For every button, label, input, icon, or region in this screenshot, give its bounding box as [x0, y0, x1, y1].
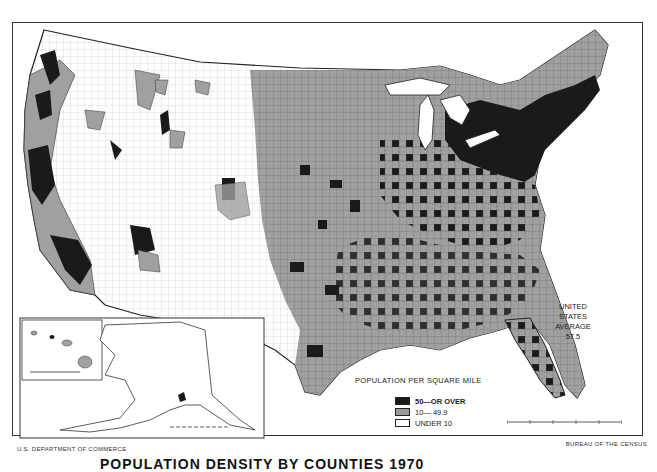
- legend-item-low: UNDER 10: [395, 418, 481, 428]
- legend-label-low: UNDER 10: [415, 419, 452, 428]
- legend-swatch-low: [395, 419, 410, 427]
- avg-line1: UNITED STATES: [545, 302, 601, 322]
- avg-value: 57.5: [545, 332, 601, 342]
- legend-item-medium: 10— 49.9: [395, 407, 481, 417]
- scale-bar: [507, 419, 622, 427]
- legend-swatch-medium: [395, 408, 410, 416]
- legend-label-medium: 10— 49.9: [415, 408, 448, 417]
- legend-label-high: 50—OR OVER: [415, 397, 465, 406]
- legend-item-high: 50—OR OVER: [395, 396, 481, 406]
- credit-department: U.S. DEPARTMENT OF COMMERCE: [17, 446, 126, 452]
- avg-line2: AVERAGE: [545, 322, 601, 332]
- credit-bureau: BUREAU OF THE CENSUS: [566, 441, 647, 447]
- legend-swatch-high: [395, 397, 410, 405]
- hawaii-inset: [22, 320, 102, 380]
- map-title: POPULATION DENSITY BY COUNTIES 1970: [100, 456, 424, 472]
- legend-title: POPULATION PER SQUARE MILE: [355, 376, 481, 385]
- legend: POPULATION PER SQUARE MILE 50—OR OVER 10…: [355, 376, 481, 429]
- us-average-annotation: UNITED STATES AVERAGE 57.5: [545, 302, 601, 342]
